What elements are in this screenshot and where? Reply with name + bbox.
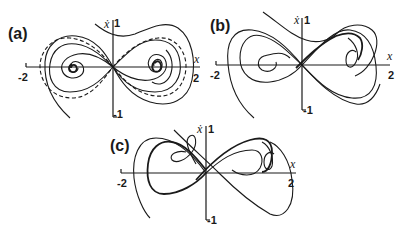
y-max-label: 1 xyxy=(208,123,214,135)
x-min-label: -2 xyxy=(210,69,220,81)
x-min-label: -2 xyxy=(18,71,28,83)
spiral-left-core xyxy=(69,64,77,72)
panel-c-label: (c) xyxy=(110,137,130,154)
trajectory-left-bundle xyxy=(148,142,206,194)
trajectory-outer-left xyxy=(228,30,302,118)
y-min-label: -1 xyxy=(113,108,123,120)
y-var-label: ẋ xyxy=(103,17,110,31)
panel-c: (c) -2 2 x ẋ 1 -1 xyxy=(110,122,296,226)
figure-canvas: (a) -2 2 x ẋ 1 -1 (b) -2 2 x ẋ xyxy=(0,0,411,233)
trajectory-right-curl xyxy=(346,38,358,67)
trajectory-right-bundle xyxy=(196,139,272,181)
y-max-label: 1 xyxy=(114,17,120,29)
x-var-label: x xyxy=(386,49,393,63)
y-var-label: ẋ xyxy=(196,122,203,136)
trajectory-left-curl xyxy=(258,53,290,71)
panel-b-label: (b) xyxy=(210,17,230,34)
panel-b: (b) -2 2 x ẋ 1 -1 xyxy=(210,12,394,118)
y-max-label: 1 xyxy=(304,14,310,26)
panel-a-label: (a) xyxy=(8,25,28,42)
x-max-label: 2 xyxy=(193,72,199,84)
y-min-label: -1 xyxy=(207,214,217,226)
trajectory-mid-crossing xyxy=(206,150,262,175)
trajectory-left-lobe xyxy=(240,35,302,82)
panel-a: (a) -2 2 x ẋ 1 -1 xyxy=(8,17,200,120)
trajectory-right-curl xyxy=(262,142,274,169)
trajectory-lower-swoop xyxy=(302,65,380,104)
x-max-label: 2 xyxy=(388,69,394,81)
y-min-label: -1 xyxy=(303,104,313,116)
y-var-label: ẋ xyxy=(293,13,300,27)
trajectory-incoming xyxy=(263,12,377,76)
trajectory-right-lobe xyxy=(302,30,376,98)
x-min-label: -2 xyxy=(117,177,127,189)
